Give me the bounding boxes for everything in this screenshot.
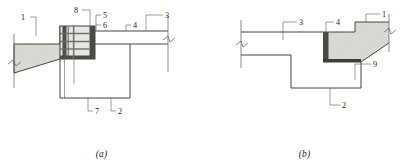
label-a-2: 2: [118, 107, 122, 116]
break-mark-right-a: [163, 36, 175, 42]
embedded-joint-box: [60, 26, 95, 59]
figure-b-drawing: 3 4 1 9 2: [203, 0, 406, 140]
label-a-3: 3: [165, 11, 169, 20]
label-a-7: 7: [95, 107, 99, 116]
label-b-4: 4: [336, 18, 340, 27]
figure-sheet: 1 8 5 6 4 3 7 2 (a): [0, 0, 406, 164]
figure-b-caption: (b): [203, 149, 406, 159]
label-a-1: 1: [21, 13, 25, 22]
figure-b: 3 4 1 9 2 (b): [203, 0, 406, 164]
label-a-8: 8: [74, 6, 78, 15]
figure-a-drawing: 1 8 5 6 4 3 7 2: [0, 0, 203, 140]
sloped-wall-body-b: [323, 22, 389, 62]
label-a-6: 6: [103, 21, 107, 30]
figure-a-caption: (a): [0, 149, 203, 159]
label-a-5: 5: [103, 11, 107, 20]
label-b-2: 2: [342, 101, 346, 110]
label-b-9: 9: [373, 60, 377, 69]
figure-a: 1 8 5 6 4 3 7 2 (a): [0, 0, 203, 164]
label-b-1: 1: [382, 10, 386, 19]
label-a-4: 4: [133, 21, 137, 30]
break-mark-left-b: [236, 41, 248, 47]
label-b-3: 3: [299, 18, 303, 27]
